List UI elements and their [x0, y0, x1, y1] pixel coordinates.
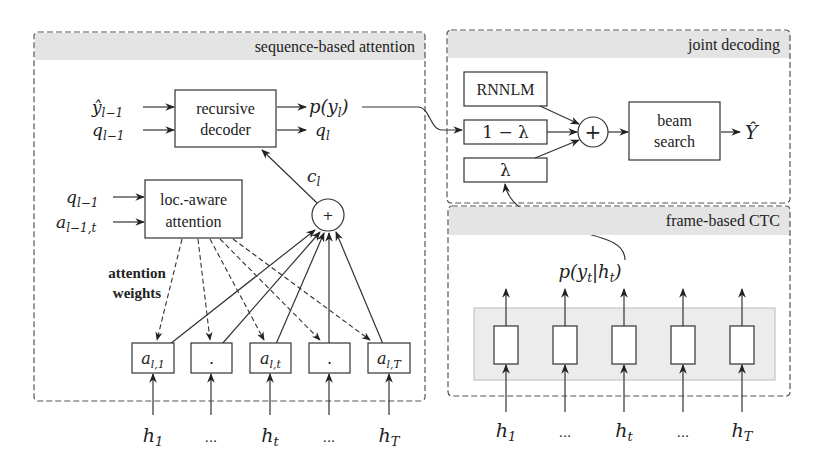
attention-label-line2: attention	[166, 213, 222, 230]
ctc-panel-title: frame-based CTC	[666, 212, 780, 229]
ctc-cell-5	[730, 326, 754, 364]
svg-text:.: .	[209, 349, 214, 368]
lambda-label: λ	[500, 160, 511, 180]
ctc-cell-3	[612, 326, 636, 364]
svg-text:...: ...	[677, 425, 689, 440]
att-q-prev-label: ql−1	[66, 187, 98, 210]
ctc-output-label: p(yt|ht)	[558, 261, 621, 285]
weight-arrow-3	[210, 239, 264, 340]
diagram-canvas: sequence-based attention recursive decod…	[0, 0, 822, 471]
weight-cell-4: .	[309, 343, 350, 373]
yhat-prev-label: ŷl−1	[91, 97, 123, 120]
svg-text:hT: hT	[732, 419, 754, 444]
q-prev-label: ql−1	[92, 120, 124, 143]
attention-panel-title: sequence-based attention	[255, 38, 415, 56]
weight-cell-5: al,T	[368, 343, 410, 373]
svg-text:...: ...	[559, 425, 571, 440]
sum-arrow-1	[170, 230, 315, 344]
svg-text:...: ...	[323, 430, 335, 445]
svg-text:ht: ht	[615, 419, 633, 444]
joint-panel-title: joint decoding	[687, 36, 780, 54]
sum-arrow-3	[276, 233, 324, 344]
sum-symbol: +	[323, 208, 334, 223]
attention-weights-label-line1: attention	[108, 265, 166, 281]
attention-weights-label-line2: weights	[113, 285, 161, 301]
recursive-decoder-box	[175, 90, 276, 147]
weight-arrow-2	[198, 239, 210, 340]
svg-text:...: ...	[205, 430, 217, 445]
sum-arrow-5	[336, 232, 383, 344]
ctc-cell-1	[494, 326, 518, 364]
svg-text:h1: h1	[143, 424, 164, 449]
ctc-cell-4	[671, 326, 695, 364]
attention-encoder-labels: h1 ... ht ... hT	[143, 424, 401, 449]
decoder-label-line2: decoder	[200, 121, 251, 138]
panel-frame-ctc: frame-based CTC p(yt|ht) h1 ... ht ... h…	[448, 206, 790, 444]
svg-text:ht: ht	[261, 424, 279, 449]
weight-cell-1: al,1	[132, 343, 174, 373]
py-label: p(yl)	[309, 96, 349, 120]
weight-cell-3: al,t	[250, 343, 291, 373]
att-a-prev-label: al−1,t	[56, 212, 96, 235]
beam-label-line1: beam	[657, 112, 692, 129]
svg-text:.: .	[327, 349, 332, 368]
svg-text:hT: hT	[379, 424, 401, 449]
svg-text:h1: h1	[496, 419, 517, 444]
one-minus-lambda-label: 1 − λ	[482, 122, 529, 142]
context-label: cl	[307, 166, 321, 189]
ctc-encoder-labels: h1 ... ht ... hT	[496, 419, 754, 444]
joint-sum-symbol: +	[585, 120, 602, 144]
decoder-label-line1: recursive	[196, 100, 255, 117]
beam-search-box	[629, 102, 720, 160]
sum-arrow-2	[222, 232, 320, 344]
output-y-hat: Ŷ	[745, 121, 760, 143]
attention-label-line1: loc.-aware	[160, 191, 227, 208]
weight-cell-2: .	[191, 343, 232, 373]
panel-sequence-attention: sequence-based attention recursive decod…	[34, 32, 425, 449]
beam-label-line2: search	[654, 133, 695, 150]
panel-joint-decoding: joint decoding RNNLM 1 − λ λ + beam sear…	[447, 30, 790, 203]
weight-arrow-5	[233, 239, 370, 340]
ctc-cell-2	[553, 326, 577, 364]
rnnlm-label: RNNLM	[477, 81, 535, 98]
q-out-label: ql	[315, 120, 330, 143]
